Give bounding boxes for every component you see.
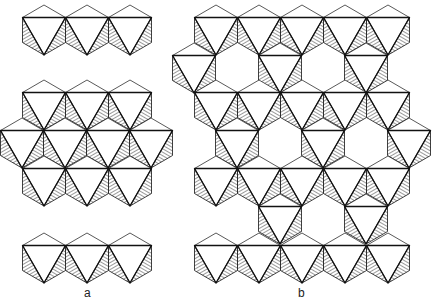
panel-a-single-chain-and-sheet — [1, 5, 173, 283]
octahedral-sheet-diagram — [0, 0, 434, 300]
octahedron — [23, 233, 66, 283]
octahedron — [109, 233, 152, 283]
octahedron — [66, 233, 109, 283]
panel-b-perforated-sheet — [173, 5, 431, 283]
panel-label-a: a — [84, 286, 91, 300]
octahedron — [66, 5, 109, 55]
octahedron — [367, 233, 410, 283]
octahedron — [281, 233, 324, 283]
octahedron — [109, 5, 152, 55]
octahedron — [23, 5, 66, 55]
panel-label-b: b — [298, 286, 305, 300]
octahedron — [195, 233, 238, 283]
